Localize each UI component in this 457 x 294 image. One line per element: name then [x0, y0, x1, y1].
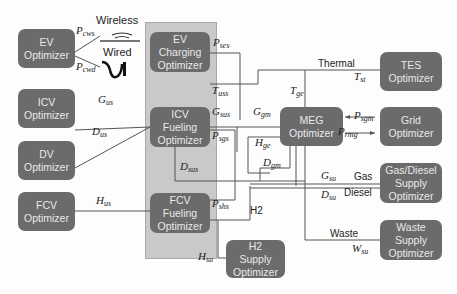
label-t-st: Tst	[354, 70, 365, 84]
dv-optimizer: DV Optimizer	[18, 141, 75, 180]
wired-charging-icon	[102, 62, 126, 77]
label-d-su: Dsu	[321, 188, 336, 202]
label-d-us: Dus	[92, 125, 107, 139]
ev-charging-optimizer: EV Charging Optimizer	[150, 32, 210, 72]
waste-label: Waste	[330, 228, 358, 239]
label-t-ge: Tge	[290, 84, 304, 98]
label-p-sgm: Psgm	[354, 109, 374, 123]
label-t-uss: Tuss	[212, 84, 228, 98]
label-g-gm: Ggm	[253, 105, 271, 119]
energy-transport-diagram: EV Optimizer ICV Optimizer DV Optimizer …	[0, 0, 457, 294]
ev-optimizer: EV Optimizer	[18, 29, 75, 68]
label-p-shs: Pshs	[212, 197, 229, 211]
wired-label: Wired	[103, 46, 132, 58]
h2-supply-optimizer: H2 Supply Optimizer	[226, 240, 285, 278]
label-h-us: Hus	[96, 194, 111, 208]
label-w-su: Wsu	[352, 242, 368, 256]
label-g-us: Gus	[98, 93, 113, 107]
tes-optimizer: TES Optimizer	[380, 52, 442, 91]
h2-label: H2	[250, 205, 263, 216]
icv-optimizer: ICV Optimizer	[18, 89, 75, 128]
label-d-gm: Dgm	[263, 156, 281, 170]
label-g-sus: Gsus	[212, 105, 230, 119]
fcv-optimizer: FCV Optimizer	[18, 192, 75, 231]
label-p-cws: Pcws	[76, 24, 95, 38]
thermal-label: Thermal	[318, 58, 355, 69]
diesel-label: Diesel	[344, 187, 372, 198]
label-p-rmg: Prmg	[338, 125, 358, 139]
label-d-sus: Dsus	[180, 160, 198, 174]
fcv-fueling-optimizer: FCV Fueling Optimizer	[150, 193, 210, 233]
meg-optimizer: MEG Optimizer	[280, 107, 343, 146]
gas-diesel-supply-optimizer: Gas/Diesel Supply Optimizer	[380, 163, 442, 203]
label-h-ge: Hge	[255, 136, 271, 150]
grid-optimizer: Grid Optimizer	[380, 107, 442, 146]
label-p-ses: Pses	[213, 36, 230, 50]
label-p-cwd: Pcwd	[76, 60, 96, 74]
wireless-label: Wireless	[96, 14, 138, 26]
label-h-su: Hsu	[198, 250, 213, 264]
waste-supply-optimizer: Waste Supply Optimizer	[380, 220, 442, 260]
wireless-charging-icon	[100, 33, 140, 42]
label-g-su: Gsu	[321, 169, 336, 183]
icv-fueling-optimizer: ICV Fueling Optimizer	[150, 107, 210, 147]
label-p-sgs: Psgs	[212, 129, 229, 143]
gas-label: Gas	[354, 171, 372, 182]
